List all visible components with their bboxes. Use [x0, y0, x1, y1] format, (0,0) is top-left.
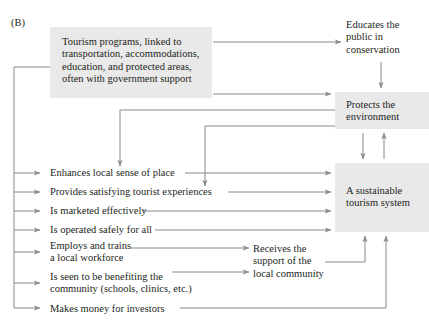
node-receives-support-line-2: support of the: [253, 255, 339, 267]
list-item-enhances-local-sense-of-place: Enhances local sense of place: [50, 167, 175, 179]
node-educates-public-line-3: conservation: [346, 44, 429, 56]
list-item-is-marketed-effectively: Is marketed effectively: [50, 205, 147, 217]
node-educates-public-line-1: Educates the: [346, 19, 429, 31]
tourism-system-diagram: (B) Tourism programs, linked to transpor…: [0, 0, 429, 326]
node-educates-public: Educates the public in conservation: [346, 19, 429, 56]
node-sustainable-tourism-system-line-2: tourism system: [346, 197, 429, 209]
list-item-is-seen-to-be-benefiting-community: Is seen to be benefiting the community (…: [50, 271, 192, 296]
node-receives-support: Receives the support of the local commun…: [253, 243, 339, 280]
trunk-programs-to-items: [14, 67, 50, 308]
list-item-benefiting-line-1: Is seen to be benefiting the: [50, 271, 192, 283]
node-receives-support-line-1: Receives the: [253, 243, 339, 255]
node-protects-environment-line-2: environment: [346, 111, 429, 123]
node-protects-environment: Protects the environment: [335, 92, 429, 129]
node-tourism-programs-line-4: often with government support: [62, 73, 212, 85]
node-tourism-programs: Tourism programs, linked to transportati…: [50, 27, 212, 98]
list-item-is-operated-safely-for-all: Is operated safely for all: [50, 224, 152, 236]
list-item-employs-line-1: Employs and trains: [50, 240, 131, 252]
node-protects-environment-line-1: Protects the: [346, 99, 429, 111]
node-tourism-programs-line-3: education, and protected areas,: [62, 61, 212, 73]
node-sustainable-tourism-system: A sustainable tourism system: [335, 163, 429, 232]
node-tourism-programs-line-1: Tourism programs, linked to: [62, 36, 212, 48]
list-item-employs-and-trains-local-workforce: Employs and trains a local workforce: [50, 240, 131, 265]
node-receives-support-line-3: local community: [253, 268, 339, 280]
list-item-employs-line-2: a local workforce: [50, 252, 131, 264]
node-tourism-programs-line-2: transportation, accommodations,: [62, 48, 212, 60]
list-item-benefiting-line-2: community (schools, clinics, etc.): [50, 283, 192, 295]
list-item-provides-satisfying-tourist-experiences: Provides satisfying tourist experiences: [50, 186, 212, 198]
node-educates-public-line-2: public in: [346, 31, 429, 43]
panel-label: (B): [11, 17, 25, 28]
node-sustainable-tourism-system-line-1: A sustainable: [346, 185, 429, 197]
list-item-makes-money-for-investors: Makes money for investors: [50, 303, 165, 315]
